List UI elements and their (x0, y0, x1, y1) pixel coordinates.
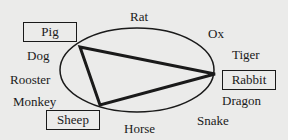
label-rat: Rat (130, 9, 148, 24)
compatibility-triangle (80, 47, 215, 105)
label-horse: Horse (124, 121, 155, 136)
label-rabbit-highlighted: Rabbit (222, 70, 276, 90)
label-ox: Ox (208, 26, 224, 41)
label-snake: Snake (197, 113, 229, 128)
label-dog: Dog (27, 48, 49, 63)
label-tiger: Tiger (232, 47, 260, 62)
label-dragon: Dragon (222, 93, 261, 108)
label-monkey: Monkey (13, 94, 56, 109)
label-rooster: Rooster (10, 72, 50, 87)
label-sheep-highlighted: Sheep (46, 110, 100, 130)
label-pig-highlighted: Pig (23, 22, 77, 42)
